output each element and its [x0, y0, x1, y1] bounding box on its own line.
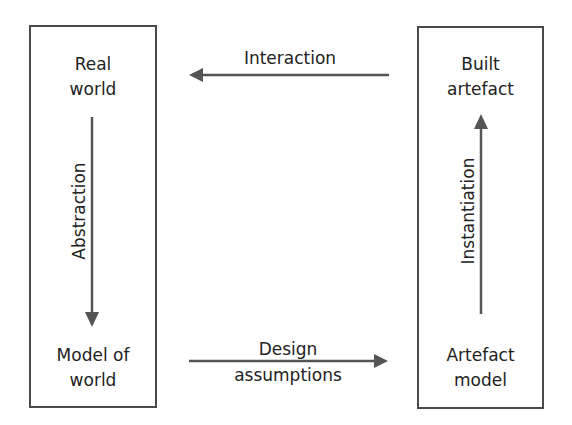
- interaction-arrow: [189, 68, 389, 82]
- node-model-of-world: Model of world: [29, 343, 157, 393]
- design-assumptions-line2: assumptions: [190, 363, 386, 387]
- node-artefact-model: Artefact model: [417, 343, 544, 393]
- interaction-label: Interaction: [200, 46, 380, 70]
- abstraction-label: Abstraction: [68, 151, 90, 271]
- node-built-artefact: Built artefact: [417, 52, 544, 102]
- model-of-world-line1: Model of: [29, 343, 157, 368]
- model-of-world-line2: world: [29, 368, 157, 393]
- built-artefact-line1: Built: [417, 52, 544, 77]
- artefact-model-line1: Artefact: [417, 343, 544, 368]
- real-world-line1: Real: [29, 52, 157, 77]
- real-world-line2: world: [29, 77, 157, 102]
- design-assumptions-line1: Design: [190, 337, 386, 361]
- instantiation-label: Instantiation: [457, 146, 479, 276]
- built-artefact-line2: artefact: [417, 77, 544, 102]
- node-real-world: Real world: [29, 52, 157, 102]
- design-assumptions-label: Design assumptions: [190, 337, 386, 387]
- artefact-model-line2: model: [417, 368, 544, 393]
